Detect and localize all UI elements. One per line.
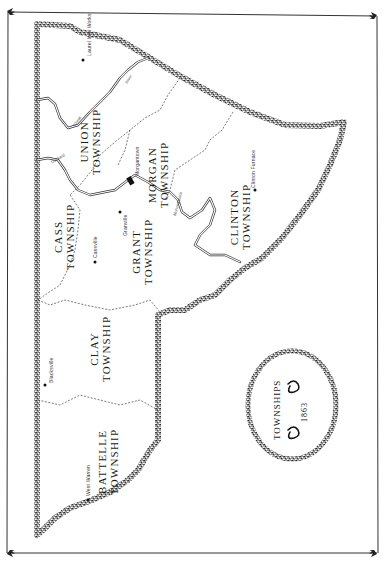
township-name: CLAY: [88, 316, 100, 382]
legend-year: 1863: [300, 402, 309, 422]
township-suffix: TOWNSHIP: [108, 429, 120, 495]
township-label-clinton: CLINTON TOWNSHIP: [228, 184, 252, 250]
township-label-battelle: BATTELLE TOWNSHIP: [96, 429, 120, 495]
township-suffix: TOWNSHIP: [240, 184, 252, 250]
township-name: MORGAN: [146, 142, 158, 208]
township-label-morgan: MORGAN TOWNSHIP: [146, 142, 170, 208]
township-suffix: TOWNSHIP: [64, 204, 76, 270]
town-label-cassville: Cassville: [92, 236, 98, 258]
corner-ornament-icon: [7, 8, 377, 557]
page-frame: [7, 12, 378, 553]
township-name: CASS: [52, 204, 64, 270]
town-label-west-warren: West Warren: [85, 465, 91, 496]
town-label-granville: Granville: [122, 214, 128, 236]
town-label-blacksville: Blacksville: [48, 357, 54, 383]
legend-title: TOWNSHIPS: [272, 380, 282, 440]
township-suffix: TOWNSHIP: [142, 219, 154, 285]
town-label-laurel-iron-works: Laurel Iron Works: [86, 13, 92, 56]
town-label-clinton-furnace: Clinton Furnace: [250, 150, 256, 188]
township-label-grant: GRANT TOWNSHIP: [130, 219, 154, 285]
legend-cartouche: [248, 351, 336, 459]
township-label-clay: CLAY TOWNSHIP: [88, 316, 112, 382]
scroll-ornament-icon: [288, 381, 299, 438]
township-name: GRANT: [130, 219, 142, 285]
township-suffix: TOWNSHIP: [90, 109, 102, 175]
township-name: CLINTON: [228, 184, 240, 250]
township-label-cass: CASS TOWNSHIP: [52, 204, 76, 270]
township-suffix: TOWNSHIP: [158, 142, 170, 208]
township-name: BATTELLE: [96, 429, 108, 495]
town-label-morgantown: Morgantown: [134, 146, 140, 176]
county-map: [0, 0, 384, 566]
township-suffix: TOWNSHIP: [100, 316, 112, 382]
